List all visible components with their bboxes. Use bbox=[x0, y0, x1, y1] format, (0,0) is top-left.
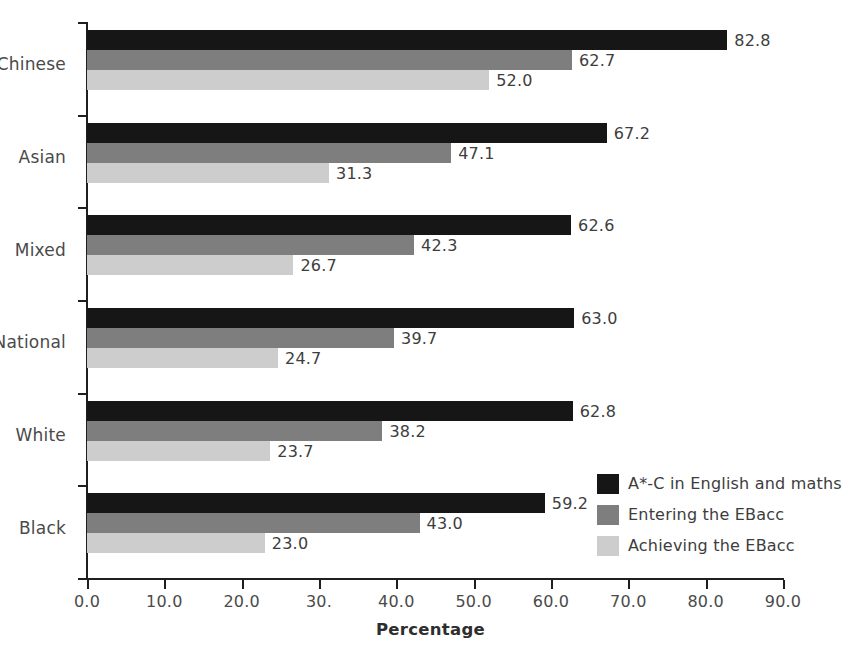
legend-item-label: Achieving the EBacc bbox=[628, 536, 795, 555]
legend-swatch-icon bbox=[597, 536, 619, 556]
x-axis-tick-label: 20.0 bbox=[223, 592, 259, 611]
bar-value-label: 63.0 bbox=[581, 309, 617, 328]
x-axis-tick bbox=[396, 580, 398, 589]
x-axis-title-text: Percentage bbox=[376, 620, 485, 639]
bar-value-label: 43.0 bbox=[427, 514, 463, 533]
x-axis-tick-label: 60.0 bbox=[533, 592, 569, 611]
y-axis-tick bbox=[78, 300, 87, 302]
y-axis-tick bbox=[78, 578, 87, 580]
legend-swatch-icon bbox=[597, 505, 619, 525]
legend-item: A*-C in English and maths bbox=[597, 468, 842, 499]
bar-value-label: 82.8 bbox=[734, 31, 770, 50]
bar bbox=[87, 70, 489, 90]
bar bbox=[87, 401, 573, 421]
bar bbox=[87, 163, 329, 183]
x-axis-tick-label: 30. bbox=[306, 592, 332, 611]
x-axis-tick bbox=[783, 580, 785, 589]
bar bbox=[87, 533, 265, 553]
x-axis-tick bbox=[551, 580, 553, 589]
x-axis-tick-label: 10.0 bbox=[146, 592, 182, 611]
bar bbox=[87, 513, 420, 533]
x-axis-tick-label: 40.0 bbox=[378, 592, 414, 611]
x-axis-tick bbox=[628, 580, 630, 589]
bar-value-label: 38.2 bbox=[389, 421, 425, 440]
y-axis-category-label: Black bbox=[19, 518, 66, 538]
bar bbox=[87, 308, 574, 328]
y-axis-tick bbox=[78, 485, 87, 487]
bar bbox=[87, 235, 414, 255]
y-axis-tick bbox=[78, 22, 87, 24]
x-axis-tick-label: 0.0 bbox=[74, 592, 100, 611]
bar-value-label: 26.7 bbox=[300, 256, 336, 275]
bar bbox=[87, 215, 571, 235]
bar-chart: ChineseAsianMixedNationalWhiteBlack 0.01… bbox=[0, 0, 847, 653]
y-axis-category-label: White bbox=[16, 425, 66, 445]
y-axis-tick bbox=[78, 393, 87, 395]
x-axis-tick bbox=[87, 580, 89, 589]
legend-item-label: Entering the EBacc bbox=[628, 505, 784, 524]
legend-item-label: A*-C in English and maths bbox=[628, 474, 842, 493]
bar-value-label: 31.3 bbox=[336, 163, 372, 182]
bar-value-label: 67.2 bbox=[614, 123, 650, 142]
x-axis-tick bbox=[242, 580, 244, 589]
bar bbox=[87, 421, 382, 441]
bar-value-label: 62.8 bbox=[580, 401, 616, 420]
bar-value-label: 52.0 bbox=[496, 71, 532, 90]
bar-value-label: 47.1 bbox=[458, 143, 494, 162]
x-axis-tick-label: 80.0 bbox=[687, 592, 723, 611]
bar bbox=[87, 143, 451, 163]
bar-value-label: 24.7 bbox=[285, 349, 321, 368]
x-axis-tick-label: 50.0 bbox=[455, 592, 491, 611]
bar-value-label: 23.7 bbox=[277, 441, 313, 460]
bar bbox=[87, 50, 572, 70]
legend-item: Achieving the EBacc bbox=[597, 530, 842, 561]
y-axis-category-label: Mixed bbox=[15, 240, 66, 260]
bar-value-label: 62.6 bbox=[578, 216, 614, 235]
x-axis-title: Percentage bbox=[0, 620, 847, 639]
x-axis-tick bbox=[706, 580, 708, 589]
bar-value-label: 62.7 bbox=[579, 51, 615, 70]
x-axis-tick-label: 70.0 bbox=[610, 592, 646, 611]
y-axis-tick bbox=[78, 207, 87, 209]
x-axis-tick bbox=[474, 580, 476, 589]
bar bbox=[87, 493, 545, 513]
y-axis-category-label: Chinese bbox=[0, 54, 66, 74]
bar bbox=[87, 441, 270, 461]
bar-value-label: 42.3 bbox=[421, 236, 457, 255]
legend-item: Entering the EBacc bbox=[597, 499, 842, 530]
x-axis-tick bbox=[164, 580, 166, 589]
chart-legend: A*-C in English and mathsEntering the EB… bbox=[597, 468, 842, 561]
bar bbox=[87, 123, 607, 143]
y-axis-category-label: Asian bbox=[19, 147, 66, 167]
x-axis-line bbox=[86, 578, 784, 580]
bar-value-label: 59.2 bbox=[552, 494, 588, 513]
y-axis-category-label: National bbox=[0, 332, 66, 352]
bar bbox=[87, 255, 293, 275]
bar bbox=[87, 328, 394, 348]
bar bbox=[87, 30, 727, 50]
bar-value-label: 23.0 bbox=[272, 534, 308, 553]
y-axis-tick bbox=[78, 115, 87, 117]
legend-swatch-icon bbox=[597, 474, 619, 494]
x-axis-tick-label: 90.0 bbox=[765, 592, 801, 611]
x-axis-tick bbox=[319, 580, 321, 589]
bar bbox=[87, 348, 278, 368]
bar-value-label: 39.7 bbox=[401, 329, 437, 348]
